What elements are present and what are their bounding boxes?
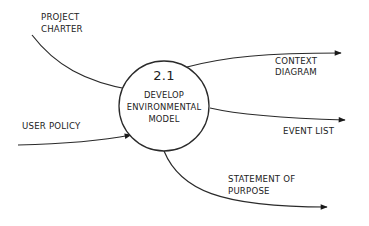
flow-statement-of-purpose: STATEMENT OF PURPOSE — [164, 151, 327, 207]
flow-context-diagram: CONTEXT DIAGRAM — [187, 53, 341, 77]
flow-line-event-list — [210, 108, 345, 120]
process-bubble: 2.1 DEVELOP ENVIRONMENTAL MODEL — [119, 61, 209, 151]
dfd-canvas: PROJECT CHARTER USER POLICY CONTEXT DIAG… — [0, 0, 369, 226]
label-context-diagram-line1: CONTEXT — [275, 56, 318, 66]
flow-event-list: EVENT LIST — [210, 108, 345, 136]
flow-project-charter: PROJECT CHARTER — [32, 12, 132, 90]
process-number: 2.1 — [153, 68, 174, 83]
process-label-line3: MODEL — [148, 114, 179, 124]
label-project-charter-line2: CHARTER — [41, 24, 83, 34]
label-event-list: EVENT LIST — [283, 126, 335, 136]
process-label-line1: DEVELOP — [144, 90, 184, 100]
label-statement-of-purpose-line2: PURPOSE — [228, 186, 270, 196]
flow-line-user-policy — [18, 135, 131, 145]
label-project-charter-line1: PROJECT — [41, 12, 80, 22]
process-label-line2: ENVIRONMENTAL — [127, 102, 202, 112]
label-statement-of-purpose-line1: STATEMENT OF — [228, 174, 295, 184]
flow-line-context-diagram — [187, 53, 341, 67]
flow-line-project-charter — [32, 35, 132, 90]
label-context-diagram-line2: DIAGRAM — [275, 67, 317, 77]
label-user-policy: USER POLICY — [22, 121, 81, 131]
flow-user-policy: USER POLICY — [18, 121, 131, 145]
